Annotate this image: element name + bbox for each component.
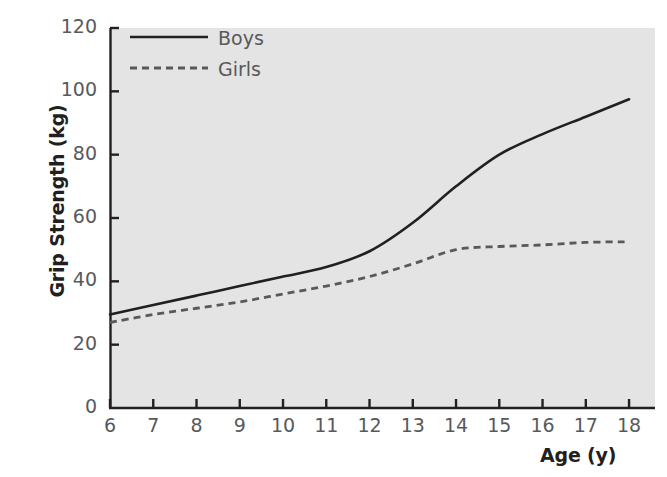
x-tick-label-text: 18: [607, 414, 651, 436]
x-tick-label-text: 16: [521, 414, 565, 436]
y-tick-label-text: 40: [37, 268, 97, 290]
x-tick-label-text: 7: [131, 414, 175, 436]
y-tick-label-text: 80: [37, 142, 97, 164]
y-tick-label-text: 120: [37, 15, 97, 37]
plot-canvas: [0, 0, 667, 477]
x-tick-label-text: 9: [218, 414, 262, 436]
x-tick-label-text: 10: [261, 414, 305, 436]
y-axis-title: Grip Strength (kg): [46, 71, 68, 331]
x-tick-label-text: 14: [434, 414, 478, 436]
x-tick-label-text: 17: [564, 414, 608, 436]
y-tick-label-text: 100: [37, 78, 97, 100]
grip-strength-chart: Boys Girls Grip Strength (kg) Age (y) 02…: [0, 0, 667, 477]
x-tick-label-text: 11: [304, 414, 348, 436]
legend-label-boys: Boys: [218, 27, 264, 49]
x-tick-label-text: 8: [175, 414, 219, 436]
legend-label-girls: Girls: [218, 58, 261, 80]
plot-background: [110, 28, 655, 408]
x-tick-label-text: 15: [477, 414, 521, 436]
y-tick-label-text: 20: [37, 332, 97, 354]
x-tick-label-text: 12: [348, 414, 392, 436]
y-tick-label-text: 60: [37, 205, 97, 227]
x-axis-title: Age (y): [540, 444, 616, 466]
x-tick-label-text: 6: [88, 414, 132, 436]
x-tick-label-text: 13: [391, 414, 435, 436]
